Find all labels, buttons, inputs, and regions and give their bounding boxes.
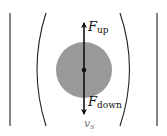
force-down-label: Fdown <box>87 94 122 110</box>
force-up-label: Fup <box>87 19 109 35</box>
diagram-canvas: Fup Fdown vs <box>0 0 167 136</box>
center-dot <box>82 68 87 73</box>
velocity-label: vs <box>84 117 94 131</box>
left-flow-line <box>37 13 46 126</box>
